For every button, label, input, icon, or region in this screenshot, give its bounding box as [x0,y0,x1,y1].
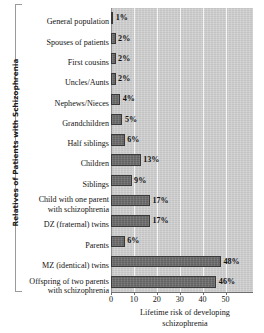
plot-area [111,8,253,292]
x-axis-label: Lifetime risk of developing schizophreni… [111,308,259,329]
x-axis-line [111,292,253,293]
y-axis-tick-label: MZ (identical) twins [22,261,109,270]
bar [111,215,150,227]
bar-value-label: 1% [116,13,128,22]
y-axis-tick-label: Uncles/Aunts [22,78,109,87]
bar [111,53,116,65]
bar-value-label: 6% [127,236,139,245]
y-axis-tick-label: Parents [22,241,109,250]
bar-value-label: 2% [118,54,130,63]
bar [111,276,216,288]
gridline [180,8,181,292]
y-axis-tick-label: Offspring of two parents with schizophre… [22,277,109,296]
bar-value-label: 2% [118,74,130,83]
bar [111,236,125,248]
y-axis-tick-label: Siblings [22,180,109,189]
bar [111,175,132,187]
bar-value-label: 5% [125,115,137,124]
y-axis-label: Relatives of Patients with Schizophrenia [11,0,20,288]
bar-value-label: 6% [127,135,139,144]
bar-value-label: 17% [152,196,168,205]
bar-value-label: 48% [223,257,239,266]
y-axis-tick-label: Children [22,159,109,168]
gridline [157,8,158,292]
bar [111,94,120,106]
y-axis-tick-label: Half siblings [22,139,109,148]
bar-chart-figure: Relatives of Patients with Schizophrenia… [0,0,264,333]
bar [111,256,221,268]
y-axis-tick-label: First cousins [22,58,109,67]
bar [111,114,122,126]
x-axis-tick-label: 0 [101,295,121,304]
bar [111,195,150,207]
gridline [226,8,227,292]
bar [111,33,116,45]
x-axis-tick-label: 30 [170,295,190,304]
bar-value-label: 46% [219,277,235,286]
bar-value-label: 4% [123,94,135,103]
plot-texture [111,8,253,292]
bar-value-label: 2% [118,34,130,43]
x-axis-tick-label: 20 [147,295,167,304]
bar [111,134,125,146]
x-axis-tick-label: 10 [124,295,144,304]
x-axis-tick-label: 50 [216,295,236,304]
bar-value-label: 9% [134,176,146,185]
bar [111,154,141,166]
bar [111,73,116,85]
plot-left-edge [111,8,112,292]
y-axis-tick-label: DZ (fraternal) twins [22,220,109,229]
y-axis-tick-labels: General populationSpouses of patientsFir… [22,10,109,292]
y-axis-group: Relatives of Patients with Schizophrenia [0,0,18,296]
y-axis-tick-label: General population [22,17,109,26]
y-axis-tick-label: Nephews/Nieces [22,99,109,108]
bar-value-label: 13% [143,155,159,164]
gridline [134,8,135,292]
gridline [203,8,204,292]
x-axis-tick-label: 40 [193,295,213,304]
bar [111,12,113,24]
y-axis-tick-label: Grandchildren [22,119,109,128]
bar-value-label: 17% [152,216,168,225]
y-axis-tick-label: Spouses of patients [22,38,109,47]
y-axis-tick-label: Child with one parent with schizophrenia [22,195,109,214]
